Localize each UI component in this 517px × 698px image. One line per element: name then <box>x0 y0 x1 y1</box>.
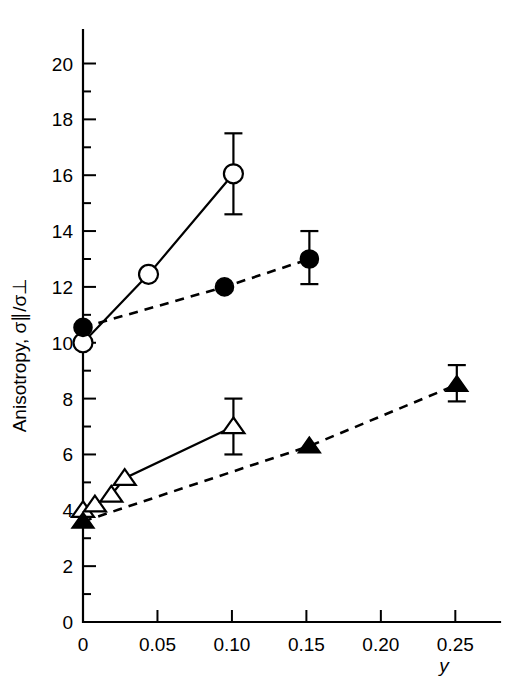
x-tick-label: 0.25 <box>437 634 474 655</box>
series-line-filled-triangles-lower <box>83 385 457 522</box>
marker-filled-circle <box>300 250 318 268</box>
x-tick-label: 0.05 <box>139 634 176 655</box>
y-tick-label: 6 <box>62 444 73 465</box>
series-line-filled-circles-upper <box>83 259 309 327</box>
marker-open-triangle <box>114 469 136 485</box>
series-line-open-circles-upper <box>83 174 233 343</box>
series-markers-group <box>72 164 468 528</box>
marker-open-triangle <box>100 486 122 502</box>
marker-open-triangle <box>222 418 244 434</box>
y-tick-label: 12 <box>52 277 73 298</box>
anisotropy-scatter-chart: 02468101214161820 00.050.100.150.200.25 … <box>0 0 517 698</box>
series-errorbars-group <box>224 133 465 454</box>
x-tick-label: 0.20 <box>362 634 399 655</box>
x-tick-label: 0.15 <box>288 634 325 655</box>
y-tick-label: 20 <box>52 54 73 75</box>
marker-filled-triangle <box>298 437 320 453</box>
y-tick-label: 14 <box>52 221 74 242</box>
marker-filled-circle <box>74 318 92 336</box>
y-tick-label: 8 <box>62 389 73 410</box>
series-lines-group <box>83 174 457 522</box>
y-tick-label: 2 <box>62 556 73 577</box>
y-tick-label: 10 <box>52 333 73 354</box>
y-tick-label: 18 <box>52 109 73 130</box>
marker-filled-triangle <box>446 376 468 392</box>
marker-open-circle <box>224 164 243 183</box>
y-tick-label: 0 <box>62 612 73 633</box>
marker-open-circle <box>139 265 158 284</box>
y-axis-tick-labels: 02468101214161820 <box>52 54 74 633</box>
x-tick-label: 0.10 <box>213 634 250 655</box>
marker-filled-circle <box>215 278 233 296</box>
figure-container: 02468101214161820 00.050.100.150.200.25 … <box>0 0 517 698</box>
y-tick-label: 4 <box>62 500 73 521</box>
y-tick-label: 16 <box>52 165 73 186</box>
x-axis-title: y <box>437 655 450 676</box>
x-axis-major-ticks <box>83 610 455 622</box>
x-tick-label: 0 <box>78 634 89 655</box>
y-axis-title: Anisotropy, σ∥/σ⊥ <box>9 278 31 433</box>
x-axis-tick-labels: 00.050.100.150.200.25 <box>78 634 474 655</box>
axis-lines <box>83 30 500 622</box>
